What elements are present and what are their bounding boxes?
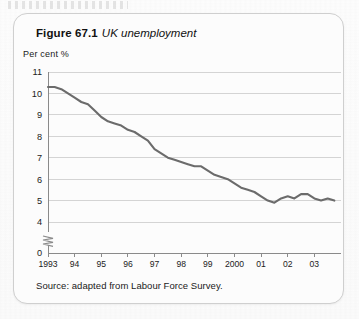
figure-card: Figure 67.1UK unemployment Per cent % 11… <box>13 13 344 304</box>
y-axis-tick-label: 10 <box>32 89 42 99</box>
x-axis-tick-label: 03 <box>310 259 320 269</box>
y-axis-tick-label: 8 <box>37 132 42 142</box>
x-axis-tick-label: 01 <box>256 259 266 269</box>
x-axis-tick-label: 97 <box>150 259 160 269</box>
page-root: Figure 67.1UK unemployment Per cent % 11… <box>0 0 359 319</box>
y-axis-tick-label: 6 <box>37 175 42 185</box>
x-axis-tick-label: 99 <box>203 259 213 269</box>
x-axis-tick-label: 1993 <box>38 259 57 269</box>
x-axis-tick-label: 95 <box>96 259 106 269</box>
x-axis-tick-label: 96 <box>123 259 133 269</box>
unemployment-line-chart: 1110987654019939495969798992000010203 <box>14 14 345 305</box>
x-axis-tick-label: 94 <box>70 259 80 269</box>
y-axis-tick-label: 5 <box>37 196 42 206</box>
axis-break-icon <box>43 236 53 246</box>
x-axis-tick-label: 2000 <box>225 259 244 269</box>
y-axis-tick-label: 7 <box>37 153 42 163</box>
unemployment-data-line <box>48 87 334 203</box>
x-axis-tick-label: 98 <box>176 259 186 269</box>
y-axis-tick-label: 0 <box>37 248 42 258</box>
chart-plot-area: 1110987654019939495969798992000010203 <box>14 14 345 305</box>
source-note: Source: adapted from Labour Force Survey… <box>36 280 223 291</box>
y-axis-tick-label: 4 <box>37 217 42 227</box>
y-axis-tick-label: 11 <box>32 67 42 77</box>
x-axis-tick-label: 02 <box>283 259 293 269</box>
page-bleed-artifact <box>8 1 128 9</box>
y-axis-tick-label: 9 <box>37 110 42 120</box>
